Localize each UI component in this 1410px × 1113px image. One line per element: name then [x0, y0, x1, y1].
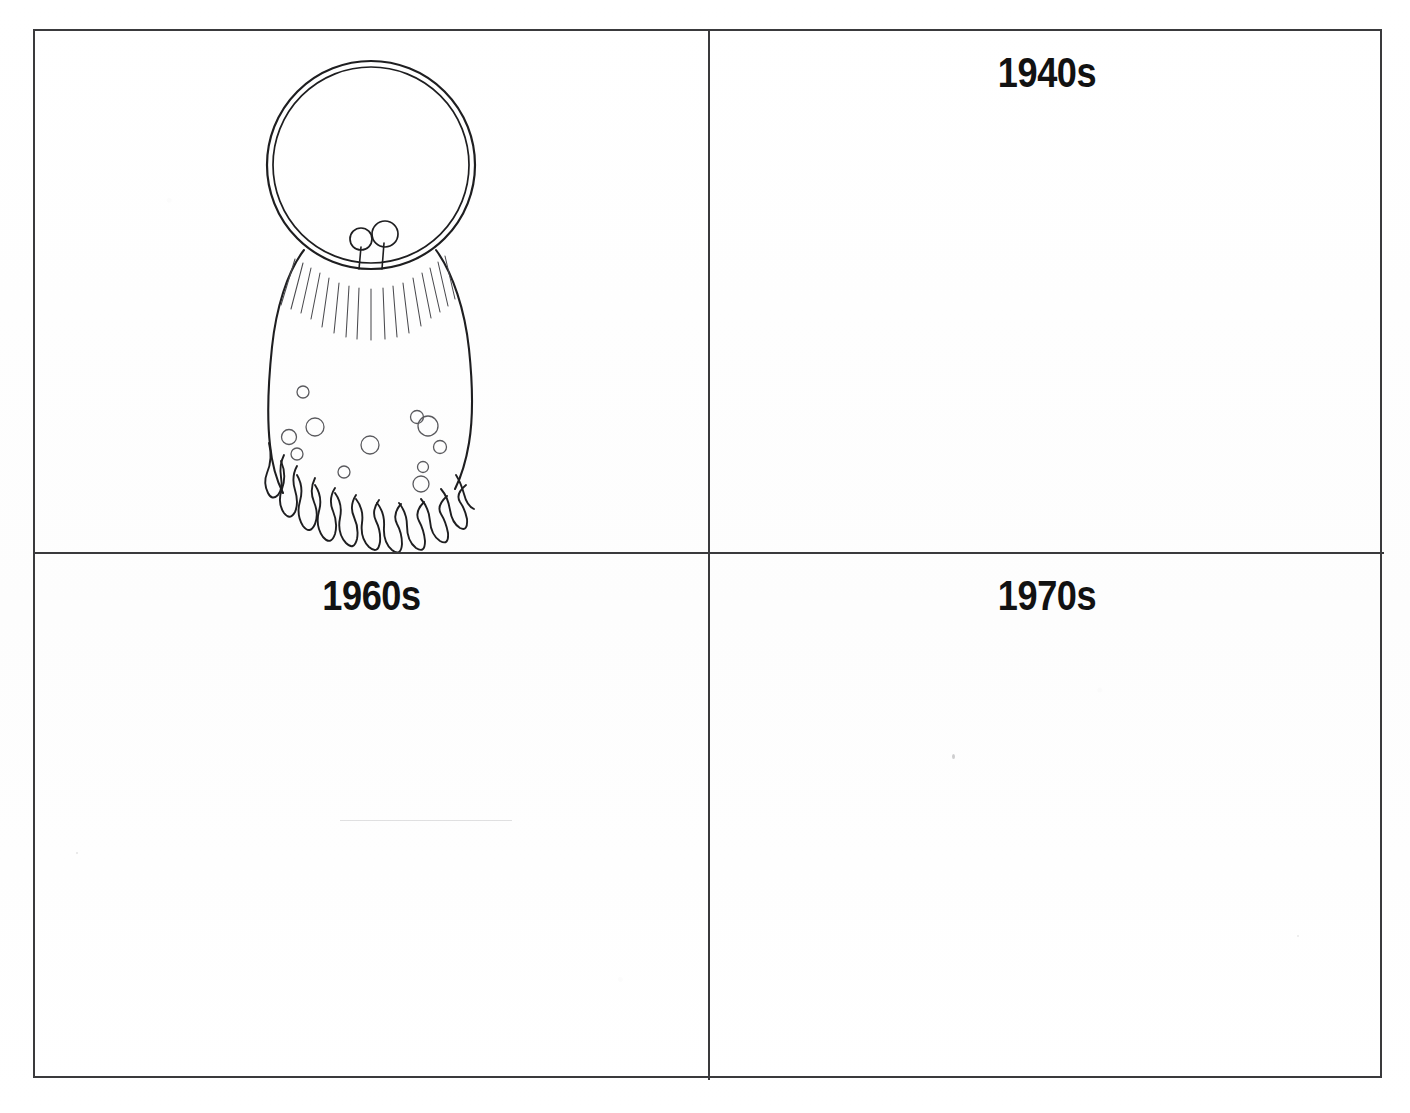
scan-speck [1297, 935, 1299, 937]
erased-pencil-mark [340, 820, 512, 821]
panel-drawing[interactable] [35, 31, 710, 554]
panel-1940s[interactable]: 1940s [710, 31, 1384, 554]
dome-creature-sketch [35, 31, 708, 552]
panel-1970s[interactable]: 1970s [710, 554, 1384, 1080]
panel-label-1940s: 1940s [757, 51, 1337, 95]
panel-1960s[interactable]: 1960s [35, 554, 710, 1080]
scan-speck [76, 852, 78, 854]
scan-speck [952, 754, 955, 759]
panel-grid: 1940s 1960s 1970s [33, 29, 1382, 1078]
worksheet-page: 1940s 1960s 1970s [0, 0, 1410, 1113]
panel-label-1960s: 1960s [82, 574, 661, 618]
scan-speck [457, 119, 459, 121]
panel-label-1970s: 1970s [757, 574, 1337, 618]
